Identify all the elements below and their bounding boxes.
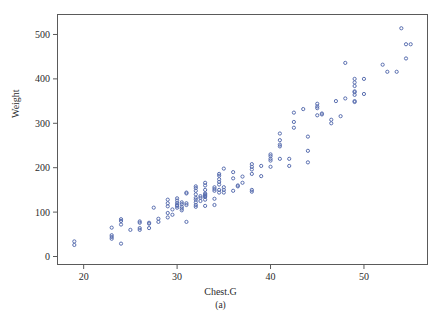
svg-text:0: 0	[45, 251, 50, 262]
svg-text:400: 400	[35, 73, 50, 84]
svg-text:40: 40	[266, 271, 276, 282]
svg-text:20: 20	[79, 271, 89, 282]
bottom-caption-clipped	[0, 319, 441, 327]
svg-text:50: 50	[359, 271, 369, 282]
svg-text:300: 300	[35, 118, 50, 129]
svg-text:500: 500	[35, 29, 50, 40]
axis-ticks	[53, 34, 364, 269]
svg-text:30: 30	[172, 271, 182, 282]
figure-panel: 203040500100200300400500 Weight Chest.G …	[0, 0, 441, 327]
figure-subcaption: (a)	[0, 300, 441, 310]
x-axis-title: Chest.G	[0, 286, 441, 297]
y-axis-title: Weight	[10, 89, 21, 118]
scatter-plot: 203040500100200300400500	[0, 0, 441, 327]
axis-tick-labels: 203040500100200300400500	[35, 29, 369, 282]
data-points	[73, 27, 413, 247]
svg-text:100: 100	[35, 207, 50, 218]
svg-text:200: 200	[35, 162, 50, 173]
